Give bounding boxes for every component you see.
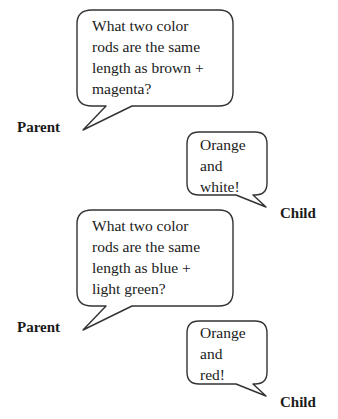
parent-question-2: What two color rods are the same length … (92, 215, 200, 299)
speaker-label-child-1: Child (280, 205, 316, 222)
parent-question-1: What two color rods are the same length … (92, 15, 204, 99)
speaker-label-parent-1: Parent (17, 119, 60, 136)
speaker-label-child-2: Child (280, 394, 316, 411)
speaker-label-parent-2: Parent (17, 319, 60, 336)
child-answer-1: Orange and white! (200, 134, 246, 197)
child-answer-2: Orange and red! (200, 322, 246, 385)
